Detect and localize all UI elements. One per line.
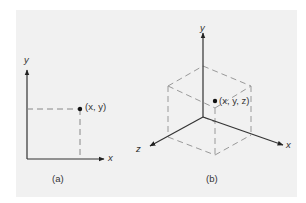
caption-b: (b) (206, 173, 218, 184)
x-axis-label-a: x (108, 152, 113, 163)
y-axis-label-b: y (200, 22, 205, 33)
panel-a-2d-axes (27, 70, 104, 159)
caption-a: (a) (52, 173, 64, 184)
point-a (78, 107, 82, 111)
point-label-a: (x, y) (85, 101, 106, 112)
z-axis-label-b: z (136, 143, 141, 154)
coordinate-diagram (0, 0, 306, 203)
x-axis-label-b: x (286, 139, 291, 150)
dashed-box (168, 66, 251, 155)
point-label-b: (x, y, z) (219, 95, 249, 106)
point-b (213, 99, 217, 103)
y-axis-label-a: y (24, 54, 29, 65)
z-axis-b (150, 117, 203, 146)
panel-b-3d-axes (150, 33, 283, 155)
